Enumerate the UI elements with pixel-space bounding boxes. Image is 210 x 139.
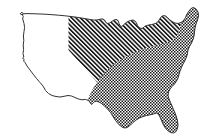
us-map-svg xyxy=(0,0,210,139)
us-thematic-map-figure xyxy=(0,0,210,139)
